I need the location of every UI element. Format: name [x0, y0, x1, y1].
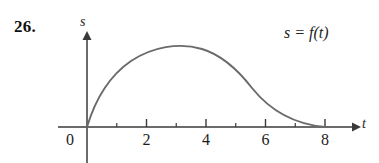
s-axis-label: s [80, 14, 85, 30]
function-curve [87, 46, 325, 127]
t-axis-label: t [362, 116, 366, 132]
tick-label-2: 2 [135, 131, 159, 149]
function-equation-label: s = f(t) [284, 24, 329, 42]
figure-page: 26. s t s = f(t) [0, 0, 379, 163]
tick-label-0: 0 [58, 131, 82, 149]
tick-label-6: 6 [254, 131, 278, 149]
tick-label-8: 8 [313, 131, 337, 149]
s-axis [83, 31, 92, 163]
tick-label-4: 4 [194, 131, 218, 149]
